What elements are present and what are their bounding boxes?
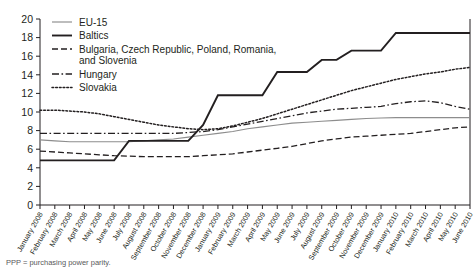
y-tick-label: 6 — [27, 143, 33, 155]
chart-caption: PPP = purchasing power parity. — [6, 258, 111, 267]
y-tick-label: 16 — [21, 50, 33, 62]
chart-canvas: 02468101214161820January 2008February 20… — [0, 0, 474, 275]
y-tick-label: 8 — [27, 124, 33, 136]
y-tick-label: 14 — [21, 69, 33, 81]
legend-label: and Slovenia — [79, 55, 137, 66]
y-tick-label: 4 — [27, 162, 33, 174]
series-line — [40, 118, 470, 142]
legend-label: Bulgaria, Czech Republic, Poland, Romani… — [79, 44, 276, 55]
y-tick-label: 18 — [21, 31, 33, 43]
y-tick-label: 10 — [21, 106, 33, 118]
y-tick-label: 2 — [27, 180, 33, 192]
legend-label: Hungary — [79, 69, 117, 80]
y-tick-label: 12 — [21, 87, 33, 99]
legend-label: Baltics — [79, 30, 108, 41]
legend-label: Slovakia — [79, 82, 117, 93]
y-tick-label: 0 — [27, 199, 33, 211]
y-tick-label: 20 — [21, 13, 33, 25]
unemployment-rate-line-chart: 02468101214161820January 2008February 20… — [0, 0, 474, 275]
legend-label: EU-15 — [79, 17, 108, 28]
